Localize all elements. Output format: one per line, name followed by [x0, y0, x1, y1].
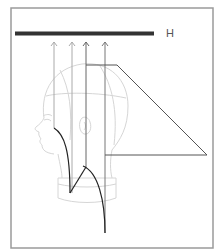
bar-label: H	[166, 27, 174, 39]
diagram-canvas	[0, 0, 218, 252]
diagram-frame	[11, 8, 213, 248]
haircut-diagram: H	[0, 0, 218, 252]
elevation-bar	[15, 32, 154, 36]
